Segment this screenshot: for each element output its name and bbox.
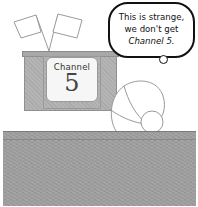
speech-line-1: This is strange, [110,11,193,23]
table-edge [3,139,196,140]
bubble-tail-icon [159,55,168,64]
speech-line-2: we don't get [110,23,193,35]
table [3,131,196,206]
speech-line-3: Channel 5. [110,35,193,47]
speech-bubble: This is strange, we don't get Channel 5. [108,2,195,58]
